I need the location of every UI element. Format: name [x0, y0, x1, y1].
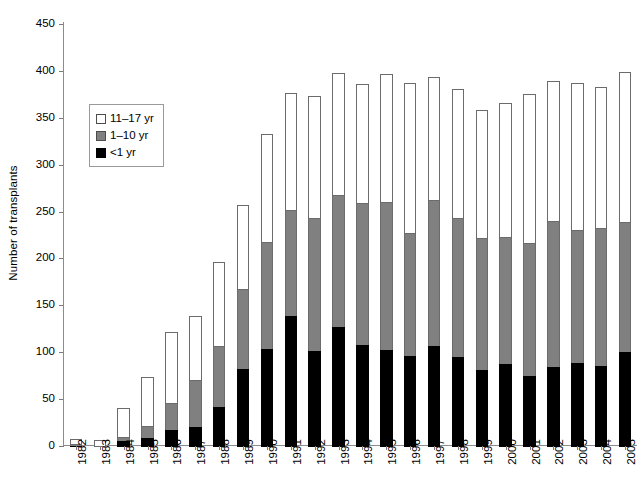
bar-1992[interactable]	[308, 96, 321, 446]
bar-1985[interactable]	[141, 377, 154, 446]
bar-2003[interactable]	[571, 83, 584, 446]
x-tick-1991: 1991	[279, 446, 303, 486]
x-tick-label: 1995	[386, 439, 398, 465]
x-tick-1983: 1983	[88, 446, 112, 486]
bar-1996[interactable]	[404, 83, 417, 446]
bar-segment	[595, 87, 608, 229]
stacked-bar-chart: Number of transplants 050100150200250300…	[0, 0, 641, 486]
x-tick-label: 1993	[339, 439, 351, 465]
x-tick-1998: 1998	[446, 446, 470, 486]
bar-1989[interactable]	[237, 205, 250, 446]
legend-swatch-black	[96, 148, 106, 158]
bar-segment	[117, 408, 130, 438]
bar-slot	[279, 24, 303, 446]
bar-segment	[499, 364, 512, 447]
bar-segment	[404, 233, 417, 357]
bar-segment	[523, 376, 536, 447]
x-tick-label: 2004	[601, 439, 613, 465]
bar-segment	[452, 357, 465, 447]
x-tick-label: 1997	[434, 439, 446, 465]
x-tick-label: 1986	[171, 439, 183, 465]
x-axis: 1982198319841985198619871988198919901991…	[64, 446, 637, 486]
bar-2000[interactable]	[499, 103, 512, 446]
x-tick-label: 1989	[243, 439, 255, 465]
bar-slot	[207, 24, 231, 446]
bar-segment	[356, 84, 369, 204]
bar-segment	[165, 403, 178, 431]
bar-slot	[518, 24, 542, 446]
bar-2005[interactable]	[619, 72, 632, 446]
x-tick-label: 1992	[315, 439, 327, 465]
y-axis: 050100150200250300350400450	[24, 18, 64, 450]
bar-segment	[237, 369, 250, 447]
bar-slot	[494, 24, 518, 446]
bar-slot	[183, 24, 207, 446]
bar-2004[interactable]	[595, 87, 608, 446]
bar-1999[interactable]	[476, 110, 489, 446]
x-tick-1992: 1992	[303, 446, 327, 486]
bar-2002[interactable]	[547, 81, 560, 446]
bar-segment	[380, 350, 393, 447]
bar-1997[interactable]	[428, 77, 441, 446]
bar-segment	[499, 103, 512, 238]
bar-segment	[380, 202, 393, 351]
bar-slot	[613, 24, 637, 446]
bar-segment	[261, 349, 274, 447]
y-axis-title-text: Number of transplants	[7, 165, 19, 280]
x-tick-label: 2005	[625, 439, 637, 465]
x-tick-label: 2002	[553, 439, 565, 465]
x-tick-2005: 2005	[613, 446, 637, 486]
bar-slot	[327, 24, 351, 446]
bar-slot	[398, 24, 422, 446]
bar-segment	[499, 237, 512, 365]
x-tick-1985: 1985	[136, 446, 160, 486]
y-tick: 300	[24, 165, 64, 166]
legend-swatch-gray	[96, 131, 106, 141]
bar-slot	[88, 24, 112, 446]
bar-1987[interactable]	[189, 316, 202, 446]
bar-1995[interactable]	[380, 74, 393, 446]
bar-segment	[595, 366, 608, 447]
bar-segment	[380, 74, 393, 203]
chart-legend: 11–17 yr1–10 yr<1 yr	[89, 104, 164, 167]
bar-segment	[332, 327, 345, 447]
bar-segment	[261, 134, 274, 243]
bar-slot	[374, 24, 398, 446]
bar-segment	[428, 346, 441, 447]
bar-segment	[213, 346, 226, 408]
bar-1994[interactable]	[356, 84, 369, 446]
bar-1991[interactable]	[285, 93, 298, 446]
x-tick-label: 2001	[530, 439, 542, 465]
bar-1986[interactable]	[165, 332, 178, 446]
bar-1988[interactable]	[213, 262, 226, 446]
bar-segment	[285, 316, 298, 447]
bar-1990[interactable]	[261, 134, 274, 446]
bar-segment	[332, 195, 345, 328]
x-tick-1993: 1993	[327, 446, 351, 486]
bar-1998[interactable]	[452, 89, 465, 446]
bar-segment	[428, 200, 441, 346]
bar-slot	[470, 24, 494, 446]
x-tick-label: 1998	[458, 439, 470, 465]
bar-segment	[619, 72, 632, 223]
bar-segment	[452, 89, 465, 219]
bar-segment	[189, 316, 202, 381]
legend-label: 1–10 yr	[110, 129, 148, 142]
bar-segment	[619, 222, 632, 353]
bar-segment	[308, 351, 321, 447]
x-tick-label: 1999	[482, 439, 494, 465]
legend-item: 11–17 yr	[96, 110, 154, 127]
x-tick-1986: 1986	[160, 446, 184, 486]
bar-slot	[589, 24, 613, 446]
bar-2001[interactable]	[523, 94, 536, 446]
y-tick-label: 100	[36, 344, 55, 359]
y-tick-label: 50	[42, 391, 55, 406]
x-tick-label: 1984	[124, 439, 136, 465]
bar-segment	[476, 110, 489, 239]
bar-slot	[542, 24, 566, 446]
bar-1993[interactable]	[332, 73, 345, 446]
x-tick-label: 1983	[100, 439, 112, 465]
bar-segment	[428, 77, 441, 202]
y-tick-label: 250	[36, 204, 55, 219]
x-tick-1982: 1982	[64, 446, 88, 486]
